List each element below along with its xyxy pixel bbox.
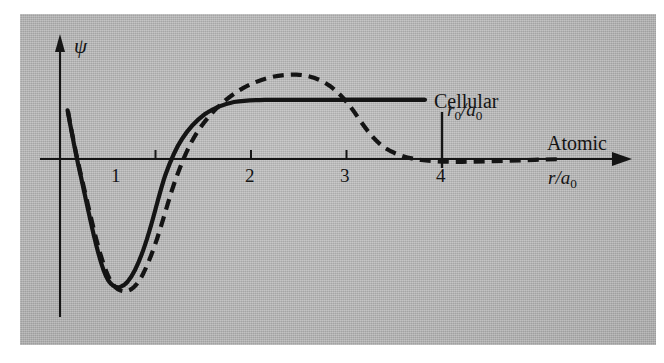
curve-cellular-solid xyxy=(68,100,425,287)
x-tick-label-1: 1 xyxy=(111,166,121,185)
tick-text-2: 2 xyxy=(245,165,255,186)
x-axis-ticks xyxy=(156,150,443,159)
tick-text-4: 4 xyxy=(436,165,446,186)
x-axis-title: r/a0 xyxy=(548,168,577,190)
y-axis xyxy=(55,34,65,317)
x-axis-arrow xyxy=(612,152,632,166)
x-tick-label-4: 4 xyxy=(436,166,446,185)
x-tick-label-2: 2 xyxy=(245,166,255,185)
x-tick-label-3: 3 xyxy=(340,166,350,185)
x-axis-title-a: a xyxy=(561,167,571,188)
y-axis-arrow xyxy=(55,34,65,52)
x-axis xyxy=(40,152,632,166)
tick-text-3: 3 xyxy=(340,165,350,186)
figure-container: ψ 1 2 3 4 r/a0 r0/a0 Cellular Atomic xyxy=(0,0,664,363)
tick-text-1: 1 xyxy=(111,165,121,186)
x-axis-title-a-sub: 0 xyxy=(570,176,577,191)
legend-label-atomic: Atomic xyxy=(547,133,607,153)
legend-label-cellular: Cellular xyxy=(434,91,498,111)
y-axis-label-psi: ψ xyxy=(74,36,87,57)
